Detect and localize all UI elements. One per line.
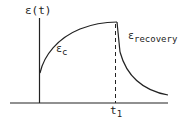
recovery-curve (120, 52, 168, 95)
t1-tick-label: t1 (110, 105, 122, 116)
creep-curve (40, 22, 117, 73)
t-subscript: 1 (117, 109, 122, 119)
recovery-strain-label: εrecovery (128, 31, 177, 41)
creep-strain-label: εc (56, 44, 67, 54)
creep-subscript: c (62, 47, 67, 57)
t-symbol: t (110, 104, 117, 117)
creep-recovery-diagram (0, 0, 194, 125)
y-axis-label: ε(t) (25, 5, 52, 16)
instantaneous-recovery-drop (117, 22, 120, 52)
recovery-subscript: recovery (134, 34, 177, 44)
